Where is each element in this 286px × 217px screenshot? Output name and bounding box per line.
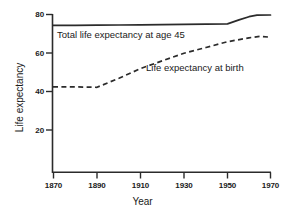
x-tick-label-1970: 1970 [256, 181, 286, 190]
y-tick-label-80: 80 [22, 10, 44, 19]
y-tick-label-20: 20 [22, 126, 44, 135]
y-tick-label-40: 40 [22, 87, 44, 96]
series-label-life-expectancy-at-birth: Life expectancy at birth [146, 62, 244, 73]
x-tick-label-1870: 1870 [39, 181, 69, 190]
x-tick-marks [54, 172, 271, 178]
x-tick-label-1950: 1950 [213, 181, 243, 190]
y-tick-label-60: 60 [22, 49, 44, 58]
x-axis-title: Year [0, 196, 285, 207]
series-label-total-life-expectancy: Total life expectancy at age 45 [57, 29, 185, 40]
y-tick-marks [46, 15, 53, 131]
y-axis-title: Life expectancy [14, 38, 25, 158]
x-tick-label-1930: 1930 [169, 181, 199, 190]
life-expectancy-chart: 80 60 40 20 1870 1890 1910 1930 1950 197… [0, 0, 285, 217]
series-total-life-expectancy-at-45 [53, 15, 271, 25]
x-tick-label-1890: 1890 [82, 181, 112, 190]
x-tick-label-1910: 1910 [126, 181, 156, 190]
